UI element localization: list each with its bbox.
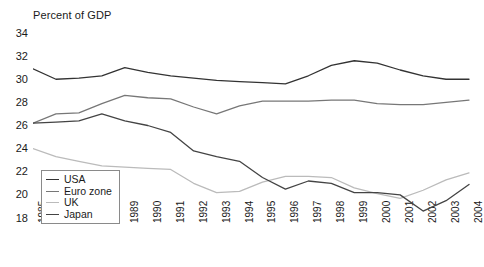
legend-swatch-icon bbox=[46, 202, 59, 203]
legend-item-japan[interactable]: Japan bbox=[46, 209, 112, 221]
legend-swatch-icon bbox=[46, 179, 59, 180]
legend-item-uk[interactable]: UK bbox=[46, 197, 112, 209]
y-axis-tick-20: 20 bbox=[6, 189, 28, 200]
legend-item-label: Japan bbox=[64, 209, 93, 220]
y-axis-tick-22: 22 bbox=[6, 166, 28, 177]
legend-item-label: USA bbox=[64, 174, 86, 185]
y-axis-tick-18: 18 bbox=[6, 213, 28, 224]
legend-item-euro-zone[interactable]: Euro zone bbox=[46, 186, 112, 198]
legend-item-label: UK bbox=[64, 197, 79, 208]
legend-swatch-icon bbox=[46, 214, 59, 215]
chart-title: Percent of GDP bbox=[33, 9, 111, 21]
y-axis-tick-32: 32 bbox=[6, 51, 28, 62]
x-axis-tick-2004: 2004 bbox=[474, 201, 484, 223]
y-axis-tick-28: 28 bbox=[6, 97, 28, 108]
series-line-usa bbox=[33, 61, 469, 84]
y-axis-tick-30: 30 bbox=[6, 74, 28, 85]
legend-item-label: Euro zone bbox=[64, 186, 112, 197]
series-line-euro-zone bbox=[33, 95, 469, 123]
y-axis-tick-34: 34 bbox=[6, 28, 28, 39]
legend-item-usa[interactable]: USA bbox=[46, 174, 112, 186]
legend-swatch-icon bbox=[46, 191, 59, 192]
y-axis-tick-24: 24 bbox=[6, 143, 28, 154]
chart-legend: USAEuro zoneUKJapan bbox=[41, 170, 120, 224]
y-axis-tick-26: 26 bbox=[6, 120, 28, 131]
